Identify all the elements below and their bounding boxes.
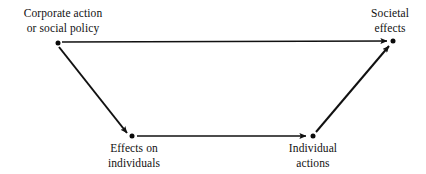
node-dot-corporate-action bbox=[56, 41, 61, 46]
node-label-individual-actions-line2: actions bbox=[289, 156, 337, 171]
node-label-effects-on-individuals: Effects on individuals bbox=[108, 141, 160, 170]
node-label-effects-on-individuals-line1: Effects on bbox=[108, 141, 160, 156]
node-dot-individual-actions bbox=[311, 134, 316, 139]
node-dot-societal-effects bbox=[391, 39, 396, 44]
diagram-canvas: Corporate action or social policy Societ… bbox=[0, 0, 426, 174]
edge-individual-actions-to-societal-effects bbox=[316, 46, 389, 132]
node-label-societal-effects-line1: Societal bbox=[371, 6, 409, 21]
node-label-societal-effects: Societal effects bbox=[371, 6, 409, 35]
node-label-individual-actions-line1: Individual bbox=[289, 141, 337, 156]
node-label-corporate-action-line1: Corporate action bbox=[24, 6, 103, 21]
node-label-effects-on-individuals-line2: individuals bbox=[108, 156, 160, 171]
node-label-corporate-action-line2: or social policy bbox=[24, 21, 103, 36]
edge-corporate-action-to-effects-on-individuals bbox=[59, 47, 127, 133]
node-label-individual-actions: Individual actions bbox=[289, 141, 337, 170]
node-dot-effects-on-individuals bbox=[130, 134, 135, 139]
node-label-corporate-action: Corporate action or social policy bbox=[24, 6, 103, 35]
edge-corporate-action-to-societal-effects bbox=[62, 41, 387, 42]
node-label-societal-effects-line2: effects bbox=[371, 21, 409, 36]
